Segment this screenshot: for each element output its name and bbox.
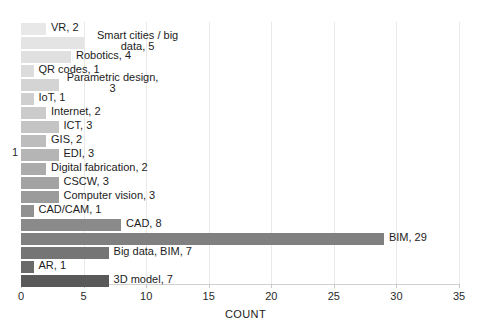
x-tick-label: 25 — [328, 290, 340, 302]
x-axis-title: COUNT — [0, 308, 491, 320]
bar-data-label: ICT, 3 — [64, 119, 93, 131]
bar-data-label: Digital fabrication, 2 — [51, 161, 148, 173]
bar[interactable] — [21, 177, 59, 189]
bar[interactable] — [21, 191, 59, 203]
bar-data-label: 3D model, 7 — [114, 273, 173, 285]
bar-data-label: BIM, 29 — [389, 231, 427, 243]
bar[interactable] — [21, 121, 59, 133]
x-tick-label: 5 — [81, 290, 87, 302]
bar-data-label: Robotics, 4 — [76, 49, 131, 61]
x-tick-label: 30 — [390, 290, 402, 302]
bar[interactable] — [21, 135, 46, 147]
x-tick-label: 35 — [453, 290, 465, 302]
bar-row[interactable]: BIM, 29 — [21, 232, 459, 247]
bar[interactable] — [21, 163, 46, 175]
bar-data-label: CSCW, 3 — [64, 175, 109, 187]
y-axis-tick-label: 1 — [0, 146, 18, 158]
bar-data-label: Big data, BIM, 7 — [114, 245, 192, 257]
bar-row[interactable]: Parametric design, 3 — [21, 78, 459, 93]
bar-row[interactable]: Big data, BIM, 7 — [21, 246, 459, 261]
bar-data-label: EDI, 3 — [64, 147, 95, 159]
bar-data-label: Parametric design, 3 — [65, 72, 161, 94]
bar[interactable] — [21, 233, 384, 245]
bar[interactable] — [21, 219, 121, 231]
bar[interactable] — [21, 247, 109, 259]
bar-row[interactable]: VR, 2 — [21, 22, 459, 37]
bar-data-label: VR, 2 — [51, 21, 79, 33]
bar-data-label: Internet, 2 — [51, 105, 101, 117]
bar-row[interactable]: ICT, 3 — [21, 120, 459, 135]
bar[interactable] — [21, 261, 34, 273]
bar-data-label: Computer vision, 3 — [64, 189, 156, 201]
bar[interactable] — [21, 107, 46, 119]
x-tick-label: 15 — [203, 290, 215, 302]
bar-row[interactable]: 3D model, 7 — [21, 274, 459, 289]
x-tick-label: 10 — [140, 290, 152, 302]
bar[interactable] — [21, 51, 71, 63]
bar[interactable] — [21, 79, 59, 91]
bar-chart: 05101520253035 COUNT 1 VR, 2Smart cities… — [0, 0, 491, 330]
x-tick-mark — [459, 284, 460, 288]
bar[interactable] — [21, 93, 34, 105]
bar[interactable] — [21, 149, 59, 161]
gridline — [459, 22, 460, 284]
bar[interactable] — [21, 23, 46, 35]
bar-data-label: CAD, 8 — [126, 217, 161, 229]
x-tick-label: 0 — [18, 290, 24, 302]
bar-data-label: CAD/CAM, 1 — [39, 203, 102, 215]
bar-data-label: AR, 1 — [39, 259, 67, 271]
chart-title — [0, 0, 491, 2]
bar[interactable] — [21, 275, 109, 287]
bar-data-label: IoT, 1 — [39, 91, 66, 103]
bar[interactable] — [21, 65, 34, 77]
x-tick-label: 20 — [265, 290, 277, 302]
bar[interactable] — [21, 37, 84, 49]
bar[interactable] — [21, 205, 34, 217]
bar-row[interactable]: CAD/CAM, 1 — [21, 204, 459, 219]
bar-data-label: GIS, 2 — [51, 133, 82, 145]
bar-row[interactable]: AR, 1 — [21, 260, 459, 275]
